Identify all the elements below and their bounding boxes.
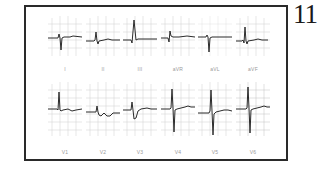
ecg-trace-icon (123, 80, 157, 138)
lead-label: V6 (233, 149, 273, 155)
lead-label: V4 (158, 149, 198, 155)
ecg-trace-icon (198, 14, 232, 58)
ecg-trace-icon (86, 80, 120, 138)
lead-label: aVR (158, 66, 198, 72)
lead-label: aVL (195, 66, 235, 72)
lead-panel-aVF (236, 14, 270, 58)
lead-label: V5 (195, 149, 235, 155)
lead-label: III (120, 66, 160, 72)
lead-label: aVF (233, 66, 273, 72)
lead-panel-V2 (86, 80, 120, 138)
page-number: 11 (293, 1, 317, 28)
lead-panel-aVR (161, 14, 195, 58)
lead-label: V1 (45, 149, 85, 155)
lead-panel-V5 (198, 80, 232, 138)
lead-panel-II (86, 14, 120, 58)
ecg-trace-icon (161, 14, 195, 58)
lead-panel-V1 (48, 80, 82, 138)
lead-panel-III (123, 14, 157, 58)
lead-panel-V6 (236, 80, 270, 138)
lead-panel-aVL (198, 14, 232, 58)
ecg-trace-icon (123, 14, 157, 58)
lead-label: I (45, 66, 85, 72)
ecg-trace-icon (236, 80, 270, 138)
ecg-trace-icon (236, 14, 270, 58)
lead-panel-V3 (123, 80, 157, 138)
ecg-trace-icon (48, 80, 82, 138)
lead-label: II (83, 66, 123, 72)
ecg-trace-icon (161, 80, 195, 138)
lead-label: V2 (83, 149, 123, 155)
lead-panel-I (48, 14, 82, 58)
lead-label: V3 (120, 149, 160, 155)
ecg-trace-icon (48, 14, 82, 58)
lead-panel-V4 (161, 80, 195, 138)
ecg-trace-icon (198, 80, 232, 138)
ecg-trace-icon (86, 14, 120, 58)
